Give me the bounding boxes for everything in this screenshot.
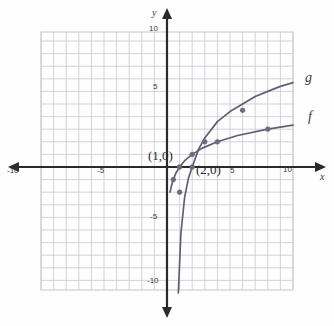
y-tick-label-10: 10 (149, 25, 158, 33)
x-tick-label-neg5: -5 (97, 167, 104, 175)
x-tick-label-10: 10 (283, 166, 292, 174)
curve-label-f: f (308, 110, 312, 124)
coordinate-plane (0, 0, 334, 326)
curve-paths (170, 83, 293, 293)
x-tick-label-neg10: -10 (7, 167, 19, 175)
y-tick-label-neg10: -10 (147, 277, 159, 285)
y-tick-label-neg5: -5 (150, 213, 157, 221)
point-annotation-1-0: (1,0) (148, 149, 173, 162)
graph-screenshot: 10 5 -5 -10 -10 -5 5 10 y x g f (1,0) (2… (0, 0, 334, 326)
x-tick-label-5: 5 (230, 167, 234, 175)
curve-label-g: g (305, 71, 312, 85)
axis-lines (8, 8, 326, 318)
point-annotation-2-0: (2,0) (196, 163, 221, 176)
y-tick-label-5: 5 (153, 83, 157, 91)
y-axis-label: y (152, 8, 156, 18)
x-axis-label: x (320, 172, 324, 182)
